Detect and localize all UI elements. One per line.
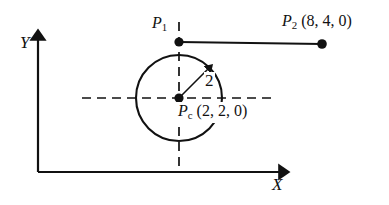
radius-label-text: 2 xyxy=(205,71,214,90)
point-label-pc-coords: (2, 2, 0) xyxy=(193,102,248,119)
radius-label: 2 xyxy=(204,72,215,89)
segment-p1-p2 xyxy=(179,42,322,44)
geometry-figure: Y X P1 P2 (8, 4, 0) Pc (2, 2, 0) 2 xyxy=(0,0,389,205)
point-label-pc: Pc (2, 2, 0) xyxy=(176,102,249,123)
point-marker-p2 xyxy=(317,39,327,49)
y-axis-label: Y xyxy=(20,34,29,51)
point-label-p1-subscript: 1 xyxy=(162,21,167,33)
x-axis-label-text: X xyxy=(272,175,282,194)
point-label-p1: P1 xyxy=(152,15,167,33)
y-axis-label-text: Y xyxy=(20,33,29,52)
point-label-pc-main: P xyxy=(178,102,188,119)
point-label-p2: P2 (8, 4, 0) xyxy=(282,13,352,31)
point-label-p1-main: P xyxy=(152,14,162,31)
x-axis-label: X xyxy=(272,176,282,193)
point-marker-p1 xyxy=(174,37,183,46)
point-label-p2-coords: (8, 4, 0) xyxy=(297,12,352,29)
point-label-p2-main: P xyxy=(282,12,292,29)
